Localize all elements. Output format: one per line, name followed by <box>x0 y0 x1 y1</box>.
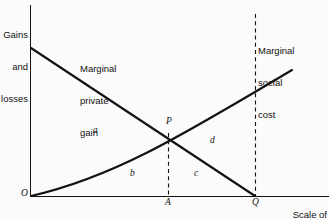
marginal-social-cost-label: Marginal social cost <box>258 25 294 142</box>
x-axis-caption: Scale of activity <box>255 189 327 219</box>
y-axis-caption-line-2: and <box>0 62 28 73</box>
point-label-O-origin: O <box>21 188 28 199</box>
mpg-label-line-1: Marginal <box>80 64 116 75</box>
y-axis-caption: Gains and losses <box>0 9 28 126</box>
marginal-private-gain-label: Marginal private gain <box>80 43 116 160</box>
mpg-label-line-2: private <box>80 96 116 107</box>
msc-label-line-3: cost <box>258 110 294 121</box>
point-label-A: A <box>165 197 171 208</box>
economics-diagram: Gains and losses Scale of activity Margi… <box>0 0 329 219</box>
marginal-private-gain-curve <box>31 48 255 196</box>
point-label-P: P <box>166 116 172 127</box>
area-label-a: a <box>93 125 98 136</box>
area-label-d: d <box>210 135 215 146</box>
y-axis-caption-line-3: losses <box>0 94 28 105</box>
y-axis-caption-line-1: Gains <box>0 30 28 41</box>
msc-label-line-2: social <box>258 78 294 89</box>
msc-label-line-1: Marginal <box>258 46 294 57</box>
x-axis-caption-line-1: Scale of <box>255 210 327 219</box>
mpg-label-line-3: gain <box>80 128 116 139</box>
point-label-Q: Q <box>252 197 259 208</box>
area-label-b: b <box>130 168 135 179</box>
area-label-c: c <box>194 168 198 179</box>
